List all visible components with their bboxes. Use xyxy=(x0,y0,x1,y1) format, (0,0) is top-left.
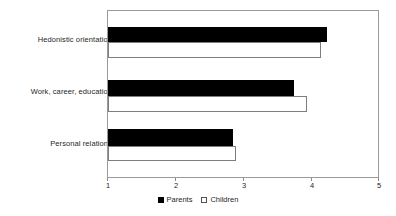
bar-children-personal-relations xyxy=(108,146,236,161)
tick-label-5: 5 xyxy=(377,181,381,190)
bar-parents-personal-relations xyxy=(108,129,233,146)
bar-chart: Hedonistic orientation Work, career, edu… xyxy=(0,0,396,216)
legend-entry-parents: Parents xyxy=(158,195,193,204)
category-label-hedonistic-orientation: Hedonistic orientation xyxy=(38,35,112,44)
bar-parents-hedonistic-orientation xyxy=(108,27,327,42)
legend-label-children: Children xyxy=(210,195,238,204)
bar-parents-work-career-education xyxy=(108,80,294,96)
category-label-work-career-education: Work, career, education xyxy=(31,87,112,96)
legend-swatch-filled-square-icon xyxy=(158,197,164,203)
legend-entry-children: Children xyxy=(201,195,238,204)
plot-area xyxy=(107,10,379,178)
tick-label-4: 4 xyxy=(310,181,314,190)
chart-legend: Parents Children xyxy=(0,195,396,204)
legend-label-parents: Parents xyxy=(167,195,193,204)
tick-label-2: 2 xyxy=(174,181,178,190)
legend-swatch-hollow-square-icon xyxy=(201,197,207,203)
tick-label-3: 3 xyxy=(242,181,246,190)
tick-label-1: 1 xyxy=(106,181,110,190)
bar-children-work-career-education xyxy=(108,96,307,112)
category-label-personal-relations: Personal relations xyxy=(50,139,112,148)
bar-children-hedonistic-orientation xyxy=(108,42,321,58)
